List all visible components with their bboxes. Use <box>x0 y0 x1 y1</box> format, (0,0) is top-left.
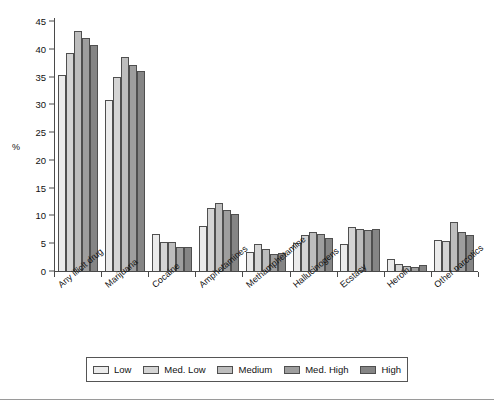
bar <box>442 241 450 271</box>
bar <box>340 244 348 271</box>
bar <box>105 100 113 271</box>
bar <box>121 57 129 271</box>
legend-swatch <box>93 366 109 374</box>
bar <box>293 243 301 271</box>
bar <box>176 247 184 271</box>
bar <box>434 240 442 271</box>
x-axis-tick-mark <box>384 272 385 277</box>
x-axis-tick-mark <box>54 272 55 277</box>
bar <box>270 254 278 271</box>
legend-swatch <box>143 366 159 374</box>
y-axis-tick-label: 20 <box>35 154 46 165</box>
chart-legend: LowMed. LowMediumMed. HighHigh <box>86 357 408 382</box>
bar <box>325 238 333 271</box>
bar <box>160 242 168 271</box>
legend-swatch <box>360 366 376 374</box>
bar <box>82 38 90 271</box>
bar-group <box>58 20 98 271</box>
bar <box>372 229 380 271</box>
legend-label: High <box>381 364 401 375</box>
bar <box>450 222 458 271</box>
bar <box>113 77 121 271</box>
bar <box>231 214 239 271</box>
y-axis-tick-label: 25 <box>35 127 46 138</box>
x-axis-tick-mark <box>431 272 432 277</box>
legend-label: Med. High <box>305 364 348 375</box>
bar <box>317 234 325 271</box>
bar <box>466 235 474 271</box>
x-axis-tick-mark <box>101 272 102 277</box>
figure: % 051015202530354045 Any illicit drugMar… <box>0 0 494 409</box>
bar <box>419 265 427 271</box>
bar-group <box>340 20 380 271</box>
bar <box>66 53 74 271</box>
legend-item: Med. Low <box>143 364 205 375</box>
bar-group <box>246 20 286 271</box>
bar <box>254 244 262 271</box>
legend-swatch <box>284 366 300 374</box>
bar-group <box>387 20 427 271</box>
bar <box>278 253 286 271</box>
bar <box>309 232 317 271</box>
bar-group <box>105 20 145 271</box>
x-axis-line <box>54 271 478 272</box>
x-axis-tick-mark <box>290 272 291 277</box>
y-axis-tick-label: 35 <box>35 71 46 82</box>
bar-group <box>152 20 192 271</box>
bar <box>74 31 82 271</box>
chart-plot-wrapper: % 051015202530354045 <box>0 0 494 300</box>
bar <box>223 210 231 271</box>
legend-swatch <box>217 366 233 374</box>
bar <box>403 266 411 271</box>
legend-item: Med. High <box>284 364 348 375</box>
legend-label: Medium <box>238 364 272 375</box>
y-axis-tick-label: 40 <box>35 43 46 54</box>
x-axis-tick-mark <box>478 272 479 277</box>
y-axis-tick-label: 0 <box>41 266 46 277</box>
y-axis-tick-label: 45 <box>35 16 46 27</box>
bar <box>90 45 98 271</box>
legend-item: Low <box>93 364 131 375</box>
y-axis-tick-label: 15 <box>35 182 46 193</box>
bar-group <box>434 20 474 271</box>
bar <box>301 235 309 271</box>
bar <box>458 232 466 271</box>
bar-group <box>199 20 239 271</box>
y-axis-tick-layer: 051015202530354045 <box>0 0 54 300</box>
x-axis-tick-mark <box>195 272 196 277</box>
y-axis-line <box>54 18 55 272</box>
x-axis-tick-mark <box>242 272 243 277</box>
bar <box>262 249 270 271</box>
bar <box>215 203 223 271</box>
bar <box>246 252 254 271</box>
legend-label: Low <box>114 364 131 375</box>
bar <box>152 234 160 271</box>
plot-area <box>54 20 478 272</box>
bar <box>199 226 207 271</box>
bar <box>129 65 137 271</box>
legend-item: High <box>360 364 401 375</box>
x-axis-tick-mark <box>337 272 338 277</box>
bar <box>348 227 356 271</box>
legend-item: Medium <box>217 364 272 375</box>
x-axis-tick-mark <box>148 272 149 277</box>
bar <box>58 75 66 271</box>
bar <box>137 71 145 271</box>
y-axis-tick-label: 5 <box>41 238 46 249</box>
bar <box>387 259 395 271</box>
legend-label: Med. Low <box>164 364 205 375</box>
bar <box>364 230 372 271</box>
y-axis-tick-label: 30 <box>35 99 46 110</box>
bar <box>395 264 403 271</box>
bar <box>168 242 176 271</box>
bar <box>184 247 192 271</box>
bottom-divider <box>0 399 494 400</box>
bar <box>207 208 215 271</box>
bar <box>411 267 419 271</box>
bar-group <box>293 20 333 271</box>
bar <box>356 229 364 271</box>
y-axis-tick-label: 10 <box>35 210 46 221</box>
